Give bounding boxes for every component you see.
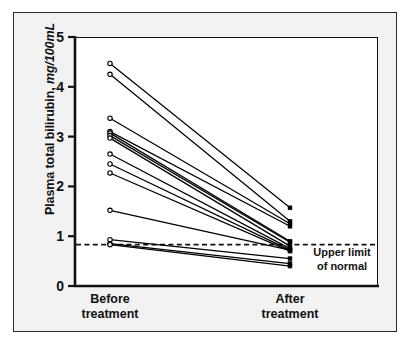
y-tick-label-5: 5: [42, 30, 64, 44]
series-markers: [108, 61, 292, 268]
y-tick-label-4: 4: [42, 80, 64, 94]
annotation-line-1: Upper limit: [313, 246, 370, 258]
y-tick-label-3: 3: [42, 130, 64, 144]
x-tick-label-line1: Before: [90, 292, 130, 306]
figure-root: Plasma total bilirubin, mg/100mL 543210 …: [0, 0, 410, 345]
annotation-upper-limit: Upper limit of normal: [296, 246, 388, 274]
y-tick-label-0: 0: [42, 279, 64, 293]
x-tick-label-line2: treatment: [50, 307, 170, 322]
series-lines: [110, 63, 290, 266]
y-tick-label-2: 2: [42, 179, 64, 193]
x-tick-label-before: Beforetreatment: [50, 292, 170, 322]
y-tick-label-1: 1: [42, 229, 64, 243]
x-tick-label-after: Aftertreatment: [230, 292, 350, 322]
x-tick-label-line1: After: [275, 292, 304, 306]
x-tick-label-line2: treatment: [230, 307, 350, 322]
y-axis-title-text: Plasma total bilirubin,: [43, 84, 57, 215]
annotation-line-2: of normal: [296, 260, 388, 274]
